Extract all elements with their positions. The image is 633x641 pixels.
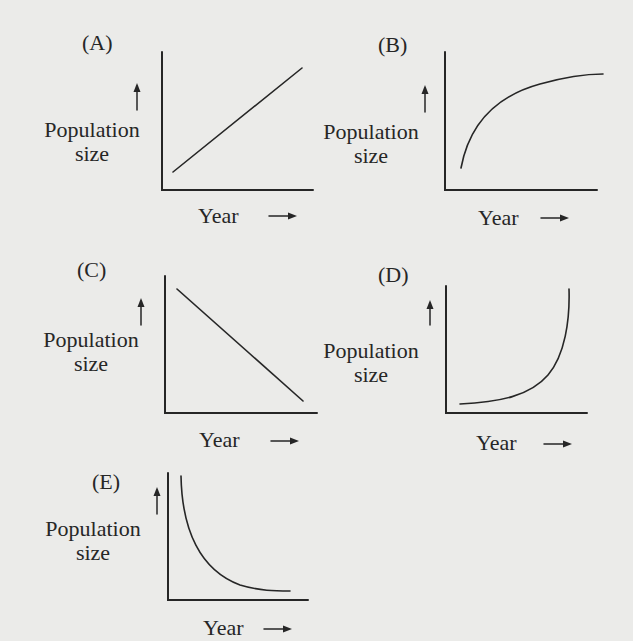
panel-a-label: (A) xyxy=(82,32,113,54)
y-label-line1: Population xyxy=(306,339,436,363)
panel-e-label: (E) xyxy=(92,471,120,493)
panel-a-y-axis-label: Population size xyxy=(28,118,156,166)
panel-c-label: (C) xyxy=(77,259,106,281)
panel-b-graph xyxy=(422,52,604,222)
panel-a-graph xyxy=(134,52,314,220)
y-label-line2: size xyxy=(28,541,158,565)
figure: (A) Population size Year (B) Population … xyxy=(0,0,633,641)
panel-d-x-axis-label: Year xyxy=(476,432,517,454)
panel-d-graph xyxy=(427,286,588,448)
panel-d-curve xyxy=(460,289,569,404)
panel-d-y-axis-label: Population size xyxy=(306,339,436,387)
panel-b-y-axis-label: Population size xyxy=(306,120,436,168)
panel-a-curve xyxy=(173,68,302,172)
y-label-line1: Population xyxy=(28,517,158,541)
panel-e-graph xyxy=(154,473,309,633)
panel-c-graph xyxy=(138,276,318,445)
panel-c-x-axis-label: Year xyxy=(199,429,240,451)
panel-e-axes xyxy=(168,473,308,600)
y-label-line2: size xyxy=(306,144,436,168)
panel-c-y-axis-label: Population size xyxy=(26,328,156,376)
panel-e-x-axis-label: Year xyxy=(203,617,244,639)
panel-d-label: (D) xyxy=(378,264,409,286)
panel-a-x-axis-label: Year xyxy=(198,205,239,227)
y-label-line2: size xyxy=(306,363,436,387)
panel-e-y-axis-label: Population size xyxy=(28,517,158,565)
panel-b-x-axis-label: Year xyxy=(478,207,519,229)
y-label-line1: Population xyxy=(26,328,156,352)
panel-e-curve xyxy=(181,476,290,591)
panel-c-curve xyxy=(177,289,303,401)
panel-d-axes xyxy=(446,286,587,413)
y-label-line1: Population xyxy=(28,118,156,142)
panel-b-axes xyxy=(445,52,597,190)
y-label-line2: size xyxy=(28,142,156,166)
panel-b-curve xyxy=(461,74,603,168)
y-label-line2: size xyxy=(26,352,156,376)
panel-b-label: (B) xyxy=(378,34,407,56)
y-label-line1: Population xyxy=(306,120,436,144)
